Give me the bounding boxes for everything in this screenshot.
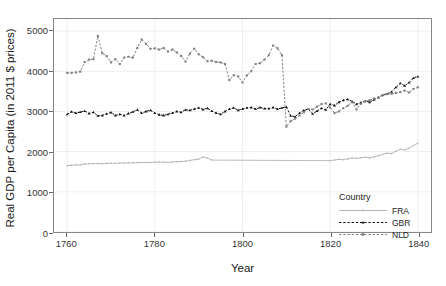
legend-label-fra: FRA: [388, 206, 409, 216]
legend-key-gbr: [338, 217, 388, 228]
x-tick-label: 1800: [218, 238, 268, 249]
legend: Country FRAGBRNLD: [338, 192, 424, 241]
y-tick-mark: [49, 233, 53, 234]
legend-entry-gbr[interactable]: GBR: [338, 217, 424, 228]
x-tick-label: 1760: [41, 238, 91, 249]
legend-entry-fra[interactable]: FRA: [338, 205, 424, 216]
legend-label-nld: NLD: [388, 230, 409, 240]
series-FRA: [66, 142, 418, 166]
legend-label-gbr: GBR: [388, 218, 410, 228]
legend-title: Country: [338, 192, 424, 202]
y-tick-label: 5000: [0, 25, 48, 36]
x-tick-mark: [154, 233, 155, 237]
y-tick-label: 3000: [0, 106, 48, 117]
y-tick-label: 4000: [0, 65, 48, 76]
y-tick-label: 2000: [0, 146, 48, 157]
legend-key-fra: [338, 205, 388, 216]
x-tick-label: 1780: [129, 238, 179, 249]
legend-entry-nld[interactable]: NLD: [338, 229, 424, 240]
x-axis-label: Year: [53, 262, 432, 274]
y-tick-label: 1000: [0, 187, 48, 198]
series-NLD: [66, 35, 419, 128]
legend-entries: FRAGBRNLD: [338, 205, 424, 240]
x-tick-mark: [331, 233, 332, 237]
legend-key-nld: [338, 229, 388, 240]
x-tick-mark: [66, 233, 67, 237]
y-tick-label: 0: [0, 228, 48, 239]
chart-figure: Real GDP per Capita (in 2011 $ prices) 0…: [0, 0, 446, 286]
x-tick-mark: [243, 233, 244, 237]
y-axis-label: Real GDP per Capita (in 2011 $ prices): [2, 8, 18, 248]
